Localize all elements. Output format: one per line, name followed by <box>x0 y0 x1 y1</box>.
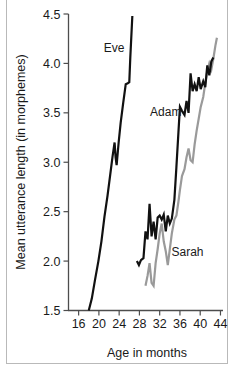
mlu-growth-line-chart: 1.52.02.53.03.54.04.5 1620242832364044 E… <box>0 0 239 372</box>
y-tick-label: 2.5 <box>43 205 60 219</box>
chart-figure: 1.52.02.53.03.54.04.5 1620242832364044 E… <box>0 0 239 372</box>
axis-lines <box>68 14 223 311</box>
x-axis-ticks <box>79 311 221 316</box>
series-label-sarah: Sarah <box>172 245 204 259</box>
y-tick-label: 4.0 <box>43 57 60 71</box>
series-label-eve: Eve <box>104 41 125 55</box>
y-tick-label: 2.0 <box>43 255 60 269</box>
y-tick-label: 4.5 <box>43 8 60 22</box>
x-tick-label: 28 <box>132 317 146 331</box>
x-axis-title: Age in months <box>107 346 187 360</box>
data-series-group <box>89 16 217 311</box>
x-tick-label: 36 <box>173 317 187 331</box>
y-axis-title: Mean utterance length (in morphemes) <box>14 54 28 269</box>
x-tick-label: 40 <box>193 317 207 331</box>
x-tick-label: 16 <box>72 317 86 331</box>
series-label-adam: Adam <box>150 105 181 119</box>
x-tick-label: 20 <box>92 317 106 331</box>
x-tick-label: 24 <box>112 317 126 331</box>
y-tick-label: 1.5 <box>43 304 60 318</box>
x-tick-label: 44 <box>214 317 228 331</box>
y-axis-tick-labels: 1.52.02.53.03.54.04.5 <box>43 8 60 319</box>
series-line-adam <box>137 57 213 265</box>
y-tick-label: 3.5 <box>43 106 60 120</box>
x-tick-label: 32 <box>153 317 167 331</box>
y-axis-ticks <box>64 14 69 311</box>
x-axis-tick-labels: 1620242832364044 <box>72 317 228 331</box>
y-tick-label: 3.0 <box>43 156 60 170</box>
series-line-eve <box>89 16 133 311</box>
